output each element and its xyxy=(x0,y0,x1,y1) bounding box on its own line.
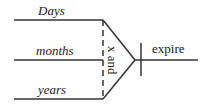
label-years: years xyxy=(36,82,66,97)
label-days: Days xyxy=(37,3,65,18)
label-months: months xyxy=(36,43,74,58)
diagram: Days months years x and expire xyxy=(0,0,210,109)
label-junction: x and xyxy=(105,46,120,75)
label-expire: expire xyxy=(152,41,185,56)
